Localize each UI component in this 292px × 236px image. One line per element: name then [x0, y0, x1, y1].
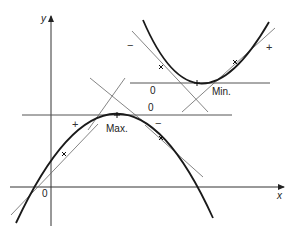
marker-min-left [159, 65, 163, 69]
tangent-line-left-steep [11, 124, 98, 215]
max-tangent-zero-label: 0 [148, 102, 154, 113]
max-left-sign: + [72, 118, 78, 130]
min-tangent-zero-label: 0 [150, 85, 156, 96]
min-label: Min. [212, 86, 231, 97]
stationary-points-diagram: y x 0 0 0 Max. Min. + − − + [0, 0, 292, 236]
x-axis-label: x [276, 190, 283, 201]
marker-min-right [233, 60, 237, 64]
y-axis-label: y [40, 13, 47, 24]
tangent-line-min-right [182, 28, 275, 112]
min-curve [143, 20, 269, 84]
marker-max-left [62, 152, 66, 156]
min-left-sign: − [127, 39, 133, 51]
tangent-line-min-left [132, 31, 208, 112]
min-right-sign: + [266, 41, 272, 53]
max-right-sign: − [155, 117, 161, 129]
marker-min [194, 80, 200, 86]
max-label: Max. [106, 123, 128, 134]
origin-label: 0 [42, 188, 48, 199]
